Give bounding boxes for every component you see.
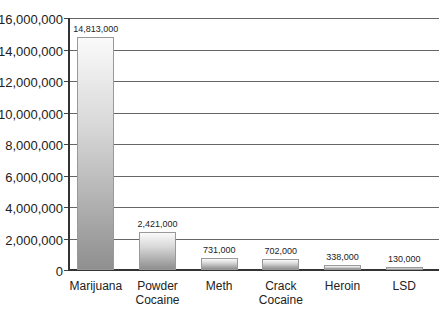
value-label: 731,000 <box>184 245 254 255</box>
gridline <box>69 207 439 208</box>
x-category-label: Marijuana <box>61 279 131 293</box>
x-category-label-line: Crack <box>246 279 316 293</box>
bar-powder-cocaine <box>139 232 176 270</box>
gridline <box>69 18 439 19</box>
y-tick-label: 8,000,000 <box>5 138 63 153</box>
x-category-label-line: Meth <box>184 279 254 293</box>
y-tick-label: 14,000,000 <box>0 44 63 59</box>
x-category-label-line: Marijuana <box>61 279 131 293</box>
bar-crack-cocaine <box>262 259 299 270</box>
bar-meth <box>201 258 238 270</box>
y-tick-label: 0 <box>56 264 63 279</box>
x-category-label-line: Powder <box>123 279 193 293</box>
x-category-label: Heroin <box>308 279 378 293</box>
bar-heroin <box>324 265 361 270</box>
x-category-label-line: Cocaine <box>123 293 193 307</box>
x-category-label: CrackCocaine <box>246 279 316 307</box>
x-category-label-line: Cocaine <box>246 293 316 307</box>
x-category-label: LSD <box>369 279 439 293</box>
y-tick-label: 16,000,000 <box>0 12 63 27</box>
y-axis <box>68 18 70 271</box>
gridline <box>69 50 439 51</box>
value-label: 130,000 <box>369 254 439 264</box>
x-category-label-line: LSD <box>369 279 439 293</box>
value-label: 2,421,000 <box>123 219 193 229</box>
x-category-label: Meth <box>184 279 254 293</box>
x-axis <box>68 269 439 271</box>
gridline <box>69 144 439 145</box>
gridline <box>69 239 439 240</box>
bar-lsd <box>386 267 423 270</box>
y-tick-label: 4,000,000 <box>5 201 63 216</box>
x-category-label: PowderCocaine <box>123 279 193 307</box>
bar-chart: 02,000,0004,000,0006,000,0008,000,00010,… <box>0 0 448 313</box>
gridline <box>69 81 439 82</box>
y-tick-label: 2,000,000 <box>5 233 63 248</box>
value-label: 702,000 <box>246 246 316 256</box>
x-category-label-line: Heroin <box>308 279 378 293</box>
y-tick-label: 10,000,000 <box>0 107 63 122</box>
y-tick-label: 6,000,000 <box>5 170 63 185</box>
y-tick-label: 12,000,000 <box>0 75 63 90</box>
value-label: 338,000 <box>308 252 378 262</box>
value-label: 14,813,000 <box>61 24 131 34</box>
gridline <box>69 113 439 114</box>
gridline <box>69 176 439 177</box>
bar-marijuana <box>77 37 114 270</box>
